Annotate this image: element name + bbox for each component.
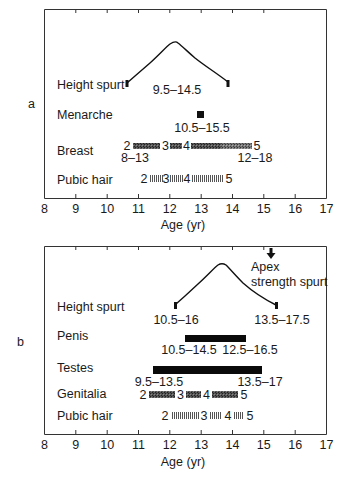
panel-a-label: a: [28, 97, 35, 111]
stage-bar: [170, 175, 183, 182]
x-tick-label: 12: [163, 202, 177, 216]
stage-bar: [186, 391, 201, 398]
puberty-timeline-diagram: a 8: [0, 0, 344, 484]
stage-bar: [171, 412, 199, 419]
height-spurt-start-marker: [126, 80, 129, 87]
stage-2-label: 2: [141, 172, 148, 186]
penis-start-range: 10.5–14.5: [161, 343, 217, 357]
panel-b-x-axis-labels: 8 9 10 11 12 13 14 15 16 17 Age (yr): [41, 438, 333, 469]
x-tick-label: 15: [257, 438, 271, 452]
x-tick-label: 9: [72, 438, 79, 452]
panel-b-label: b: [17, 335, 24, 349]
x-axis-title: Age (yr): [161, 218, 205, 232]
penis-bar: [185, 335, 246, 342]
breast-end-range: 12–18: [238, 151, 273, 165]
panel-a-frame: [45, 10, 327, 199]
row-label-breast: Breast: [57, 144, 94, 158]
menarche-range: 10.5–15.5: [174, 121, 230, 135]
stage-bar: [149, 175, 163, 182]
x-tick-label: 14: [226, 202, 240, 216]
x-tick-label: 9: [72, 202, 79, 216]
pubic-hair-stages: 2 3 4 5: [162, 409, 254, 423]
x-tick-label: 15: [257, 202, 271, 216]
row-label-menarche: Menarche: [57, 108, 113, 122]
height-spurt-end-range: 13.5–17.5: [254, 313, 310, 327]
row-label-height-spurt: Height spurt: [57, 300, 125, 314]
x-tick-label: 16: [288, 202, 302, 216]
x-tick-label: 14: [226, 438, 240, 452]
pubic-hair-stages: 2 3 4 5: [141, 172, 233, 186]
testes-end-range: 13.5–17: [237, 375, 282, 389]
panel-a: a 8: [28, 10, 333, 233]
stage-bar: [212, 391, 238, 398]
row-label-testes: Testes: [57, 361, 93, 375]
panel-a-top-ticks: [76, 10, 264, 14]
apex-arrow-icon: [267, 248, 276, 259]
stage-bar: [233, 412, 244, 419]
testes-start-range: 9.5–13.5: [135, 375, 184, 389]
apex-label-line1: Apex: [251, 260, 280, 274]
apex-label-line2: strength spurt: [251, 275, 328, 289]
stage-5-label: 5: [247, 409, 254, 423]
x-tick-label: 8: [41, 438, 48, 452]
stage-3-label: 3: [162, 139, 169, 153]
stage-4-label: 4: [184, 172, 191, 186]
stage-2-label: 2: [140, 388, 147, 402]
panel-b-top-ticks: [76, 247, 264, 251]
stage-5-label: 5: [241, 388, 248, 402]
menarche-marker: [197, 111, 204, 118]
row-label-penis: Penis: [57, 329, 88, 343]
x-tick-label: 12: [163, 438, 177, 452]
stage-bar: [170, 143, 182, 149]
row-label-genitalia: Genitalia: [57, 387, 106, 401]
row-label-height-spurt: Height spurt: [57, 78, 125, 92]
height-spurt-end-marker: [275, 302, 278, 309]
row-label-pubic-hair: Pubic hair: [57, 173, 113, 187]
stage-3-label: 3: [201, 409, 208, 423]
panel-a-bottom-ticks: [76, 194, 295, 199]
x-tick-label: 13: [194, 438, 208, 452]
x-tick-label: 16: [288, 438, 302, 452]
testes-bar: [153, 366, 262, 374]
height-spurt-curve: [127, 42, 228, 83]
x-tick-label: 10: [100, 202, 114, 216]
stage-2-label: 2: [162, 409, 169, 423]
x-tick-label: 10: [100, 438, 114, 452]
x-tick-label: 13: [194, 202, 208, 216]
x-tick-label: 17: [320, 202, 334, 216]
stage-bar-fade: [221, 143, 252, 149]
height-spurt-start-marker: [174, 302, 177, 309]
breast-start-range: 8–13: [121, 151, 149, 165]
x-tick-label: 8: [41, 202, 48, 216]
x-axis-title: Age (yr): [161, 455, 205, 469]
height-spurt-end-marker: [227, 80, 230, 87]
panel-b: b 8 9 10: [17, 247, 333, 470]
stage-4-label: 4: [225, 409, 232, 423]
stage-5-label: 5: [226, 172, 233, 186]
stage-4-label: 4: [183, 139, 190, 153]
stage-bar: [133, 143, 160, 149]
penis-end-range: 12.5–16.5: [222, 343, 278, 357]
stage-3-label: 3: [163, 172, 170, 186]
stage-bar: [149, 391, 175, 398]
stage-bar: [209, 412, 222, 419]
x-tick-label: 11: [132, 438, 145, 452]
stage-3-label: 3: [177, 388, 184, 402]
stage-4-label: 4: [203, 388, 210, 402]
height-spurt-range: 9.5–14.5: [153, 83, 202, 97]
x-tick-label: 17: [320, 438, 334, 452]
x-tick-label: 11: [132, 202, 145, 216]
genitalia-stages: 2 3 4 5: [140, 388, 248, 402]
row-label-pubic-hair: Pubic hair: [57, 409, 113, 423]
height-spurt-start-range: 10.5–16: [153, 313, 198, 327]
panel-b-bottom-ticks: [76, 430, 295, 435]
stage-bar: [191, 175, 223, 182]
panel-a-x-axis-labels: 8 9 10 11 12 13 14 15 16 17 Age (yr): [41, 202, 333, 232]
